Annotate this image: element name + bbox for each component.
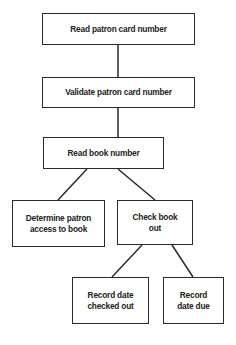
node-label: Record date checked out — [87, 290, 133, 312]
node-label: Validate patron card number — [65, 87, 172, 98]
node-label: Read book number — [68, 148, 140, 159]
node-determine-access: Determine patron access to book — [12, 200, 105, 247]
node-record-date-due: Record date due — [163, 277, 224, 324]
node-read-patron-card: Read patron card number — [42, 13, 195, 45]
node-record-date-checked-out: Record date checked out — [72, 277, 149, 324]
node-check-book-out: Check book out — [117, 200, 193, 245]
node-label: Record date due — [177, 290, 210, 312]
edge-check-out-to-record-checked — [112, 245, 142, 277]
edge-read-book-to-check-out — [118, 169, 155, 200]
node-label: Check book out — [132, 212, 177, 234]
node-read-book-number: Read book number — [43, 137, 164, 169]
edge-read-book-to-determine — [58, 169, 87, 200]
node-label: Determine patron access to book — [26, 213, 92, 235]
node-validate-patron-card: Validate patron card number — [42, 77, 195, 108]
node-label: Read patron card number — [70, 24, 166, 35]
edge-check-out-to-record-due — [172, 245, 193, 277]
